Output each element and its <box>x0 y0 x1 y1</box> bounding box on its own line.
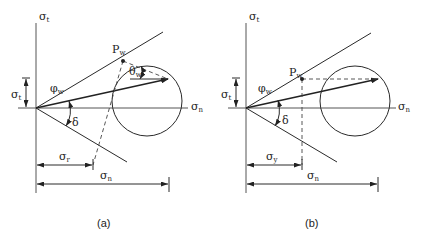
sigma-n-dim-label: σn <box>307 169 320 183</box>
sigma-t-dim-label: σt <box>221 88 232 102</box>
p-w-point <box>121 59 125 63</box>
upper-envelope-line <box>246 33 371 108</box>
delta-arc <box>275 100 279 126</box>
caption-a: (a) <box>97 217 110 229</box>
sigma-n-axis-label: σn <box>398 100 411 114</box>
sigma-t-axis-label: σt <box>249 10 260 24</box>
sigma-t-dim-label: σt <box>11 88 22 102</box>
phi-w-label: φw <box>50 82 64 96</box>
sigma-n-axis-label: σn <box>191 100 204 114</box>
dashed-diameter <box>93 61 123 165</box>
p-w-label: Pw <box>112 43 125 57</box>
delta-arc <box>66 101 70 126</box>
panel-a: σt σn Pw θw φw δ σt σr <box>11 10 204 229</box>
caption-b: (b) <box>305 217 318 229</box>
mohr-circle <box>320 66 390 136</box>
sigma-r-dim-label: σr <box>59 150 71 164</box>
sigma-y-dim-label: σy <box>266 150 278 164</box>
phi-w-label: φw <box>258 82 272 96</box>
mohr-circle <box>112 66 182 136</box>
upper-envelope-line <box>36 32 163 108</box>
sigma-t-axis-label: σt <box>39 10 50 24</box>
delta-label: δ <box>72 116 79 129</box>
mohr-circle-diagram: σt σn Pw θw φw δ σt σr <box>0 0 422 239</box>
lower-envelope-line <box>36 108 127 162</box>
panel-b: σt σn Pw φw δ σt σy σn (b) <box>221 10 411 229</box>
sigma-n-dim-label: σn <box>100 169 113 183</box>
delta-label: δ <box>282 114 289 127</box>
p-w-label: Pw <box>289 66 302 80</box>
